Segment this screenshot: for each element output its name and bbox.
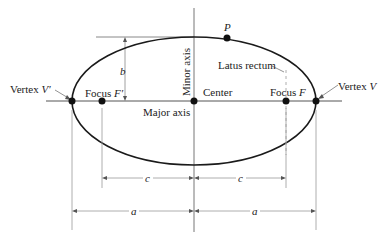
a-right-arrow-icon [194,209,199,213]
c-left-arrow-icon [102,176,107,180]
vertex-left-point [69,98,76,105]
b-arrow-bottom-icon [123,96,127,101]
minor-axis-label: Minor axis [180,48,192,96]
vertex-left-label: Vertex V′ [10,83,51,95]
c-left-arrow-icon [189,176,194,180]
a-right-arrow-icon [311,209,316,213]
a-left-label: a [131,205,137,217]
point-p [224,35,231,42]
vertex-right-point [313,98,320,105]
vertex-right-label: Vertex V [338,80,377,92]
c-right-label: c [238,172,243,184]
major-axis-label: Major axis [143,106,190,118]
b-arrow-top-icon [123,37,127,42]
a-right-label: a [252,205,258,217]
focus-right-label: Focus F [270,86,306,98]
focus-right-point [283,98,290,105]
a-left-arrow-icon [189,209,194,213]
c-right-arrow-icon [194,176,199,180]
c-left-label: c [145,172,150,184]
latus-rectum-label: Latus rectum [218,59,276,71]
c-right-arrow-icon [281,176,286,180]
a-left-arrow-icon [72,209,77,213]
ellipse-diagram: Vertex V′ Focus F′ Major axis Minor axis… [0,0,386,243]
center-point [191,98,198,105]
focus-left-label: Focus F′ [85,87,124,99]
center-label: Center [203,86,233,98]
point-p-label: P [223,21,231,33]
b-label: b [120,65,126,77]
